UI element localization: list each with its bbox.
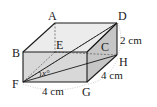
cuboid-diagram: x° A D B E C H F G 2 cm 4 cm 4 cm [0, 0, 157, 107]
dim-label-dh: 2 cm [120, 34, 142, 46]
label-e: E [56, 38, 63, 52]
dim-label-fg: 4 cm [42, 85, 64, 97]
dim-label-gh: 4 cm [101, 69, 123, 81]
label-d: D [118, 9, 127, 23]
label-f: F [12, 77, 19, 91]
front-face [23, 52, 87, 82]
label-a: A [48, 9, 57, 23]
label-h: H [119, 55, 128, 69]
angle-label: x° [41, 68, 50, 78]
label-c: C [101, 40, 109, 54]
label-g: G [82, 85, 91, 99]
label-b: B [12, 46, 20, 60]
